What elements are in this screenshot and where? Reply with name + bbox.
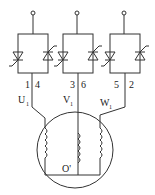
svg-text:1: 1: [26, 101, 29, 107]
terminal-label: 5: [114, 79, 119, 90]
terminal-label: 4: [35, 79, 40, 90]
thyristor-icon: [135, 46, 149, 60]
terminal-u: [31, 11, 35, 15]
terminal-w: [122, 11, 126, 15]
svg-text:1: 1: [70, 101, 73, 107]
thyristor-icon: [9, 52, 23, 66]
motor-group: O': [37, 112, 113, 188]
terminal-v: [75, 11, 79, 15]
circuit-diagram: 1 4 U 1 3 6 V 1: [0, 0, 155, 195]
phase-w-group: 5 2 W 1: [100, 11, 149, 115]
thyristor-icon: [54, 52, 68, 66]
winding-u-icon: [45, 128, 47, 158]
terminal-label: 6: [81, 79, 86, 90]
terminal-label: 3: [70, 79, 75, 90]
terminal-label: 2: [129, 79, 134, 90]
thyristor-icon: [43, 46, 57, 60]
terminal-label: 1: [25, 79, 30, 90]
winding-w-icon: [100, 128, 102, 158]
thyristor-icon: [88, 46, 102, 60]
thyristor-icon: [101, 52, 115, 66]
neutral-label: O': [62, 163, 71, 174]
motor-lead-label-u: U: [18, 94, 26, 105]
svg-text:1: 1: [109, 104, 112, 110]
phase-u-group: 1 4 U 1: [9, 11, 57, 118]
